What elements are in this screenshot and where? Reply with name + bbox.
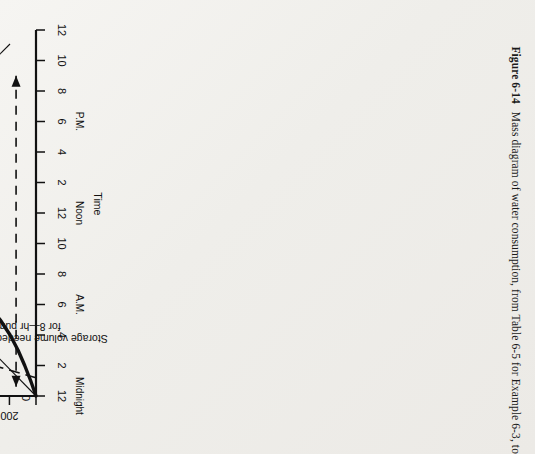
annotation-line: Storage volume needed is 2.11 mil gal xyxy=(0,333,108,345)
figure-number: Figure 6-14 xyxy=(510,46,522,103)
x-tick-label: 2 xyxy=(56,179,68,185)
mass-diagram-figure: 12Midnight246A.M.81012Noon246P.M.8101202… xyxy=(0,0,535,454)
x-tick-sublabel: P.M. xyxy=(74,112,85,131)
y-tick-label: 0 xyxy=(20,395,32,401)
chart-canvas: 12Midnight246A.M.81012Noon246P.M.8101202… xyxy=(0,0,535,454)
x-tick-label: 12 xyxy=(56,207,68,219)
reservoir-full-leader xyxy=(0,44,10,78)
x-tick-sublabel: Midnight xyxy=(74,377,85,415)
x-tick-label: 8 xyxy=(56,271,68,277)
figure-caption-text: Mass diagram of water consumption, from … xyxy=(510,112,522,454)
x-tick-label: 8 xyxy=(56,88,68,94)
x-tick-label: 12 xyxy=(56,24,68,36)
plot-area xyxy=(0,30,45,405)
x-tick-sublabel: Noon xyxy=(74,201,85,225)
figure-caption-block: Figure 6-14 Mass diagram of water consum… xyxy=(503,0,529,454)
y-tick-label: 200 xyxy=(0,410,18,422)
x-tick-sublabel: A.M. xyxy=(74,294,85,315)
x-tick-label: 6 xyxy=(56,118,68,124)
x-axis-title: Time xyxy=(92,192,104,215)
annotation-line: for 8—hr pumping xyxy=(0,321,61,333)
x-tick-label: 4 xyxy=(56,149,68,155)
x-tick-label: 6 xyxy=(56,301,68,307)
x-tick-label: 10 xyxy=(56,54,68,66)
annotation-storage-volume-8hr: Storage volume needed is 2.11 mil galfor… xyxy=(0,321,108,345)
x-tick-label: 12 xyxy=(56,390,68,402)
x-tick-label: 2 xyxy=(56,362,68,368)
x-tick-label: 10 xyxy=(56,237,68,249)
